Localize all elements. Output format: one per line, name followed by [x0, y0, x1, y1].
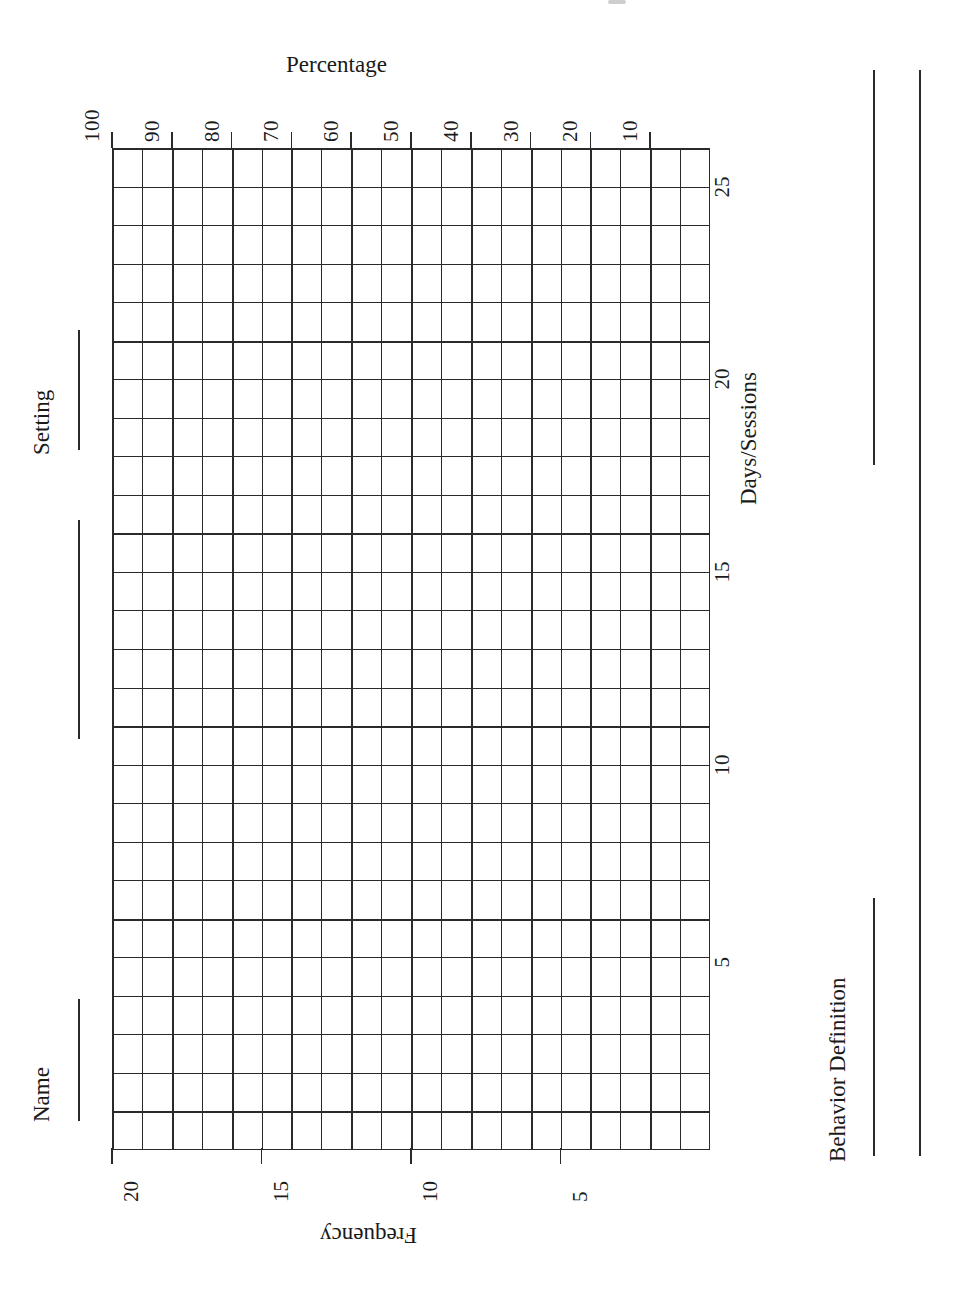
percentage-tick-label: 60 — [321, 120, 342, 142]
name-field-label: Name — [30, 1067, 53, 1122]
behavior-definition-field-blank-second-line[interactable] — [919, 70, 921, 1156]
percentage-tick-mark — [590, 132, 592, 148]
frequency-tick-mark — [410, 1148, 412, 1164]
percentage-tick-label: 70 — [261, 120, 282, 142]
percentage-tick-label: 10 — [620, 120, 641, 142]
percentage-axis: 100908070605040302010 — [112, 86, 710, 142]
scan-artifact — [608, 0, 626, 4]
setting-field-blank-upper[interactable] — [873, 70, 875, 465]
behavior-definition-field-label: Behavior Definition — [826, 977, 849, 1162]
name-field-blank[interactable] — [78, 999, 80, 1121]
percentage-tick-mark — [231, 132, 233, 148]
days-tick-label: 15 — [712, 561, 733, 582]
frequency-axis: 2015105 — [112, 1156, 710, 1216]
percentage-tick-mark — [291, 132, 293, 148]
percentage-tick-label: 100 — [82, 109, 103, 142]
frequency-tick-label: 10 — [420, 1181, 441, 1202]
percentage-tick-mark — [530, 132, 532, 148]
percentage-tick-mark — [649, 132, 651, 148]
days-tick-label: 20 — [712, 369, 733, 390]
percentage-tick-mark — [350, 132, 352, 148]
frequency-axis-title: Frequency — [320, 1222, 417, 1248]
days-axis: 252015105 — [712, 148, 772, 1150]
percentage-tick-label: 90 — [142, 120, 163, 142]
data-grid-svg[interactable] — [112, 148, 710, 1150]
percentage-tick-mark — [470, 132, 472, 148]
percentage-tick-label: 30 — [501, 120, 522, 142]
percentage-tick-mark — [410, 132, 412, 148]
setting-field-label: Setting — [30, 390, 53, 455]
days-axis-title: Days/Sessions — [736, 372, 762, 505]
days-tick-label: 5 — [712, 957, 733, 968]
percentage-axis-title: Percentage — [286, 52, 387, 78]
percentage-tick-label: 50 — [381, 120, 402, 142]
percentage-tick-label: 40 — [441, 120, 462, 142]
frequency-tick-label: 20 — [121, 1181, 142, 1202]
data-grid[interactable] — [112, 148, 710, 1150]
chart-sheet: 100908070605040302010 Percentage 2015105… — [0, 0, 954, 1298]
behavior-definition-field-blank[interactable] — [873, 898, 875, 1156]
percentage-tick-mark — [111, 132, 113, 148]
days-tick-label: 25 — [712, 176, 733, 197]
setting-field-blank-continued[interactable] — [78, 520, 80, 739]
percentage-tick-label: 20 — [560, 120, 581, 142]
frequency-tick-label: 5 — [570, 1192, 591, 1203]
frequency-tick-label: 15 — [271, 1181, 292, 1202]
percentage-tick-mark — [171, 132, 173, 148]
frequency-tick-mark — [560, 1148, 562, 1164]
days-tick-label: 10 — [712, 754, 733, 775]
frequency-tick-mark — [261, 1148, 263, 1164]
setting-field-blank[interactable] — [78, 330, 80, 450]
percentage-tick-label: 80 — [202, 120, 223, 142]
frequency-tick-mark — [111, 1148, 113, 1164]
